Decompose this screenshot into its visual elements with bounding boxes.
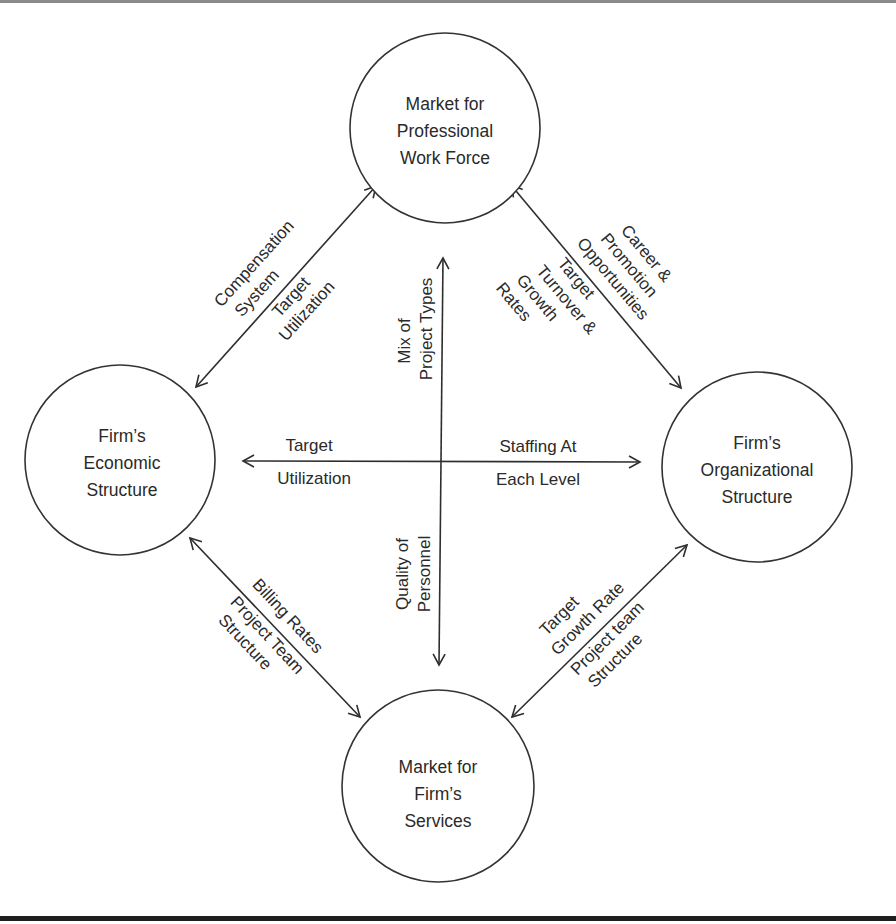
node-label-line: Firm’s [733,433,781,453]
node-label-line: Market for [399,757,478,777]
node-label-line: Services [404,811,471,831]
node-economic-structure: Firm’s Economic Structure [25,365,215,555]
node-label-line: Structure [722,487,793,507]
edge-label-line: Personnel [415,536,434,613]
edge-label-top-right: Career & Promotion Opportunities Target … [492,193,685,382]
arrow-bottom-right [512,545,687,717]
edge-label-line: Target [285,436,333,455]
edge-label-bottom-right: Target Growth Rate Project team Structur… [532,563,663,694]
node-label-line: Professional [397,121,493,141]
edge-label-vertical-upper: Mix of Project Types [395,278,436,381]
node-label-line: Market for [406,94,485,114]
bottom-rule [0,916,896,921]
node-professional-work-force: Market for Professional Work Force [350,33,540,223]
edge-label-line: Quality of [393,538,412,610]
node-firms-services: Market for Firm’s Services [342,690,534,882]
node-label-line: Structure [87,480,158,500]
relationship-diagram: Market for Professional Work Force Firm’… [0,0,896,924]
node-label-line: Economic [84,453,161,473]
edge-label-line: Mix of [395,318,414,364]
edge-label-line: Project Types [417,278,436,381]
edge-label-line: Each Level [496,470,580,489]
node-label-line: Firm’s [98,426,146,446]
edge-label-bottom-left: Billing Rates Project Team Structure [211,573,328,692]
edge-label-vertical-lower: Quality of Personnel [393,536,434,613]
edge-label-line: Staffing At [499,437,576,456]
edge-label-line: Utilization [277,469,351,488]
node-label-line: Firm’s [414,784,462,804]
node-label-line: Organizational [701,460,814,480]
node-label-line: Work Force [400,148,490,168]
node-organizational-structure: Firm’s Organizational Structure [662,372,852,562]
arrow-bottom-left [190,538,360,717]
